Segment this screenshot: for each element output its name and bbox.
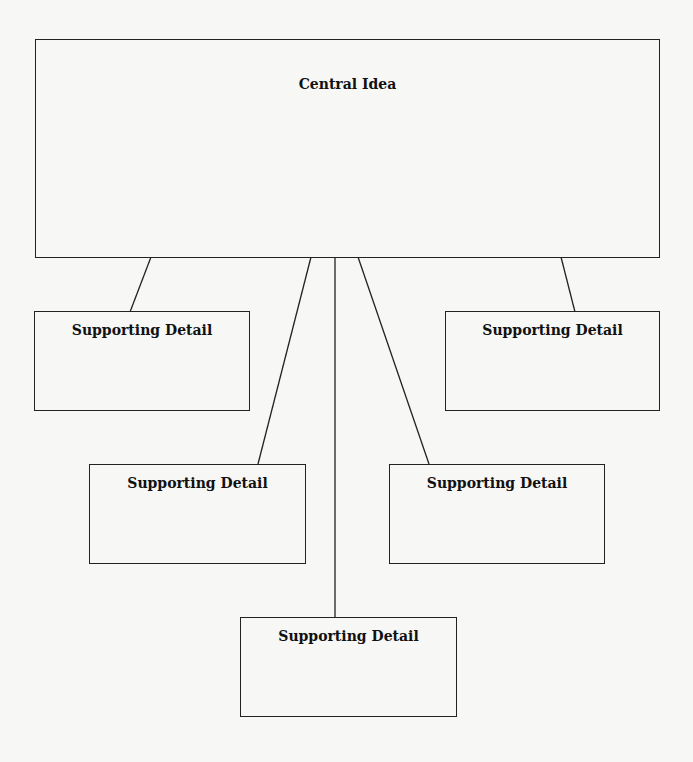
supporting-detail-label: Supporting Detail bbox=[241, 628, 456, 644]
supporting-detail-box: Supporting Detail bbox=[34, 311, 250, 411]
supporting-detail-label: Supporting Detail bbox=[446, 322, 659, 338]
supporting-detail-label: Supporting Detail bbox=[35, 322, 249, 338]
supporting-detail-box: Supporting Detail bbox=[240, 617, 457, 717]
supporting-detail-box: Supporting Detail bbox=[445, 311, 660, 411]
central-idea-label: Central Idea bbox=[36, 76, 659, 92]
central-idea-box: Central Idea bbox=[35, 39, 660, 258]
supporting-detail-label: Supporting Detail bbox=[390, 475, 604, 491]
supporting-detail-box: Supporting Detail bbox=[89, 464, 306, 564]
supporting-detail-box: Supporting Detail bbox=[389, 464, 605, 564]
supporting-detail-label: Supporting Detail bbox=[90, 475, 305, 491]
